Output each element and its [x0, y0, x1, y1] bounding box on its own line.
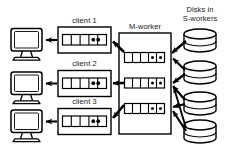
mworker-queue-1	[125, 53, 165, 63]
disks-in-s-workers-label: Disks in S-workers	[174, 5, 226, 23]
terminal-3	[11, 110, 42, 142]
mworker-label: M-worker	[117, 23, 173, 32]
arrow-disk2-to-mworker-queue2	[173, 74, 185, 83]
client-1-queue	[63, 35, 107, 46]
mworker-box	[119, 33, 171, 134]
mworker-queue-2	[125, 78, 165, 88]
client-1-label: client 1	[58, 17, 111, 26]
mworker-queue-3	[125, 104, 165, 114]
diagram-canvas: client 1 client 2 client 3 M-worker Disk…	[0, 0, 232, 146]
disk-3	[184, 92, 216, 115]
client-3-queue	[63, 116, 107, 127]
disk-4	[184, 120, 216, 143]
arrow-disk2-to-mworker-queue1	[173, 59, 185, 71]
disk-1	[184, 29, 216, 52]
terminal-1	[11, 29, 42, 61]
client-box-3	[58, 109, 111, 135]
client-3-label: client 3	[58, 98, 111, 107]
client-box-2	[58, 71, 111, 97]
disk-2	[184, 61, 216, 84]
client-2-label: client 2	[58, 60, 111, 69]
terminal-2	[11, 72, 42, 104]
client-box-1	[58, 27, 111, 53]
client-2-queue	[63, 78, 107, 89]
